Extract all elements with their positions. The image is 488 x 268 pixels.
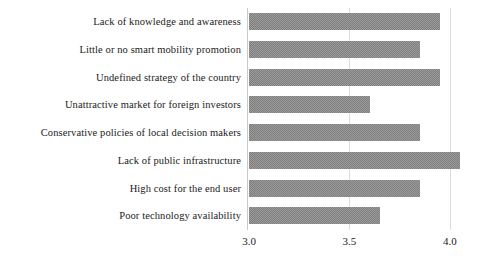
bar [249, 180, 420, 197]
bar [249, 41, 420, 58]
category-label: Lack of knowledge and awareness [0, 16, 241, 28]
bar-row [249, 91, 470, 119]
bar-row [249, 175, 470, 203]
category-label: Little or no smart mobility promotion [0, 44, 241, 56]
tick-label-3-0: 3.0 [242, 234, 256, 248]
tick-label-4-0: 4.0 [443, 234, 457, 248]
value-axis-line [247, 8, 248, 230]
category-label: Lack of public infrastructure [0, 155, 241, 167]
bar-rows [249, 8, 470, 230]
bar [249, 69, 440, 86]
bar [249, 13, 440, 30]
bar [249, 207, 380, 224]
plot-area [249, 8, 470, 230]
value-axis-tick-labels: 3.0 3.5 4.0 [0, 234, 488, 252]
tick-label-3-5: 3.5 [343, 234, 357, 248]
bar [249, 124, 420, 141]
category-label: High cost for the end user [0, 183, 241, 195]
category-axis-labels: Lack of knowledge and awareness Little o… [0, 8, 241, 230]
bar-row [249, 36, 470, 64]
bar [249, 96, 370, 113]
category-label: Undefined strategy of the country [0, 72, 241, 84]
bar-row [249, 202, 470, 230]
bar-row [249, 64, 470, 92]
bar-row [249, 147, 470, 175]
bar-chart: Lack of knowledge and awareness Little o… [0, 0, 488, 268]
category-label: Unattractive market for foreign investor… [0, 99, 241, 111]
bar [249, 152, 460, 169]
category-label: Conservative policies of local decision … [0, 127, 241, 139]
bar-row [249, 8, 470, 36]
category-label: Poor technology availability [0, 210, 241, 222]
bar-row [249, 119, 470, 147]
